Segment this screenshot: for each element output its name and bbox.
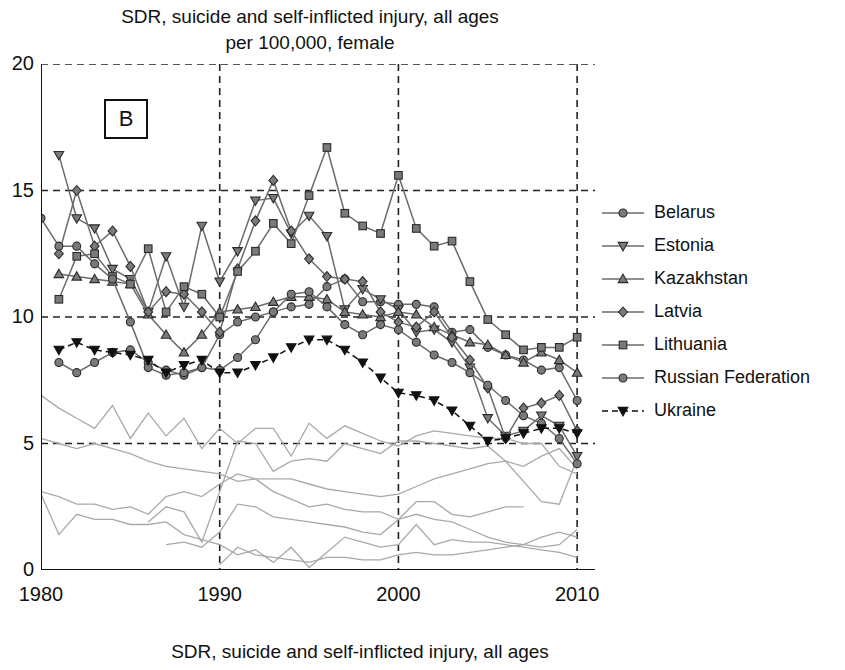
- series-line: [59, 180, 577, 438]
- y-tick-label-20: 20: [0, 53, 34, 73]
- data-point: [179, 303, 189, 311]
- data-point: [91, 250, 99, 258]
- series-estonia: [54, 151, 582, 460]
- background-series-line: [41, 438, 577, 496]
- data-point: [215, 369, 225, 377]
- data-point: [234, 353, 242, 361]
- data-point: [412, 300, 420, 308]
- data-point: [54, 269, 64, 277]
- data-point: [72, 215, 82, 223]
- data-point: [270, 220, 278, 228]
- data-point: [619, 341, 627, 349]
- data-point: [234, 268, 242, 276]
- data-point: [286, 344, 296, 352]
- data-point: [555, 364, 563, 372]
- data-point: [483, 437, 493, 445]
- data-point: [234, 318, 242, 326]
- data-point: [305, 288, 313, 296]
- data-point: [251, 336, 259, 344]
- triangle-down-filled-icon: [600, 400, 646, 422]
- y-tick-label-10: 10: [0, 306, 34, 326]
- data-point: [484, 316, 492, 324]
- legend-item-estonia[interactable]: Estonia: [600, 229, 845, 262]
- data-point: [538, 344, 546, 352]
- data-point: [322, 336, 332, 344]
- data-point: [466, 326, 474, 334]
- x-tick-label-2010: 2010: [537, 584, 617, 604]
- data-point: [341, 209, 349, 217]
- data-point: [198, 290, 206, 298]
- data-point: [305, 300, 313, 308]
- data-point: [72, 186, 81, 196]
- x-tick-label-1990: 1990: [180, 584, 260, 604]
- legend-item-kazakhstan[interactable]: Kazakhstan: [600, 262, 845, 295]
- data-point: [377, 230, 385, 238]
- data-point: [323, 303, 331, 311]
- data-point: [91, 260, 99, 268]
- data-point: [305, 192, 313, 200]
- y-tick-label-5: 5: [0, 433, 34, 453]
- data-point: [554, 355, 564, 363]
- data-point: [233, 369, 243, 377]
- data-point: [394, 326, 402, 334]
- chart-title-line-2: per 100,000, female: [0, 30, 620, 56]
- data-point: [215, 278, 225, 286]
- series-line: [59, 274, 577, 373]
- data-point: [395, 172, 403, 180]
- data-point: [520, 346, 528, 354]
- data-point: [162, 308, 170, 316]
- data-point: [251, 197, 261, 205]
- data-point: [537, 366, 545, 374]
- data-point: [90, 225, 100, 233]
- data-point: [572, 368, 582, 376]
- data-point: [377, 321, 385, 329]
- data-point: [73, 242, 81, 250]
- legend-label: Lithuania: [646, 334, 727, 355]
- legend-item-belarus[interactable]: Belarus: [600, 196, 845, 229]
- background-series-line: [148, 441, 577, 542]
- data-point: [161, 253, 171, 261]
- data-point: [358, 359, 368, 367]
- x-tick-label-1980: 1980: [1, 584, 81, 604]
- legend-label: Belarus: [646, 202, 715, 223]
- data-point: [55, 359, 63, 367]
- data-point: [233, 248, 243, 256]
- chart-title: SDR, suicide and self-inflicted injury, …: [0, 4, 620, 56]
- data-point: [73, 369, 81, 377]
- data-point: [573, 460, 581, 468]
- x-tick-label-2000: 2000: [358, 584, 438, 604]
- legend-item-russian-federation[interactable]: Russian Federation: [600, 361, 845, 394]
- data-point: [323, 283, 331, 291]
- square-icon: [600, 334, 646, 356]
- data-point: [619, 209, 627, 217]
- data-point: [448, 237, 456, 245]
- data-point: [412, 225, 420, 233]
- data-point: [466, 369, 474, 377]
- y-tick-label-0: 0: [0, 559, 34, 579]
- legend-item-lithuania[interactable]: Lithuania: [600, 328, 845, 361]
- data-point: [55, 242, 63, 250]
- data-point: [252, 247, 260, 255]
- data-point: [127, 280, 135, 288]
- data-point: [429, 397, 439, 405]
- data-point: [108, 275, 116, 283]
- data-point: [555, 390, 564, 400]
- data-point: [54, 346, 64, 354]
- data-point: [340, 346, 350, 354]
- data-point: [269, 308, 277, 316]
- circle-icon: [600, 367, 646, 389]
- data-point: [619, 374, 627, 382]
- data-point: [502, 396, 510, 404]
- plot-svg: [41, 64, 595, 570]
- legend-label: Ukraine: [646, 400, 716, 421]
- triangle-down-icon: [600, 235, 646, 257]
- series-line: [59, 155, 577, 456]
- data-point: [466, 278, 474, 286]
- data-point: [144, 245, 152, 253]
- background-series-line: [41, 474, 577, 547]
- data-point: [359, 222, 367, 230]
- legend-item-latvia[interactable]: Latvia: [600, 295, 845, 328]
- data-point: [359, 298, 367, 306]
- y-tick-label-15: 15: [0, 180, 34, 200]
- legend-item-ukraine[interactable]: Ukraine: [600, 394, 845, 427]
